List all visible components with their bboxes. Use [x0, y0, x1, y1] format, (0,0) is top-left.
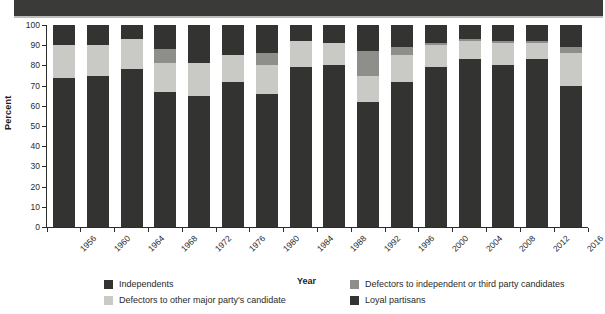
bar-segment-defectors-third-party	[492, 41, 514, 43]
bar-1996	[391, 25, 413, 227]
chart-legend: Independents Defectors to independent or…	[104, 280, 584, 310]
bar-1968	[154, 25, 176, 227]
bar-segment-defectors-other-party	[425, 45, 447, 67]
x-tick-mark	[418, 228, 419, 232]
bar-2012	[526, 25, 548, 227]
bar-segment-independents	[391, 25, 413, 47]
bar-segment-loyal-partisans	[290, 67, 312, 227]
legend-swatch-defectors-third-party	[350, 280, 359, 289]
x-tick-label-1976: 1976	[248, 234, 267, 253]
x-tick-mark	[554, 228, 555, 232]
bar-segment-defectors-other-party	[290, 41, 312, 67]
legend-item-independents: Independents	[104, 280, 174, 289]
y-tick-mark	[42, 25, 46, 26]
x-tick-label-1980: 1980	[281, 234, 300, 253]
bar-segment-defectors-third-party	[256, 53, 278, 65]
bar-segment-independents	[492, 25, 514, 41]
bar-segment-independents	[290, 25, 312, 41]
bar-segment-defectors-third-party	[459, 39, 481, 41]
bar-segment-defectors-other-party	[560, 53, 582, 85]
bar-segment-defectors-third-party	[560, 47, 582, 53]
x-tick-mark	[114, 228, 115, 232]
bar-segment-independents	[323, 25, 345, 43]
bar-segment-independents	[87, 25, 109, 45]
x-tick-mark	[588, 228, 589, 232]
x-tick-label-1964: 1964	[146, 234, 165, 253]
legend-item-loyal-partisans: Loyal partisans	[350, 296, 426, 305]
scan-artifact-banner	[14, 0, 603, 17]
bar-segment-loyal-partisans	[425, 67, 447, 227]
legend-swatch-defectors-other-party	[104, 296, 113, 305]
bar-1972	[188, 25, 210, 227]
x-tick-mark	[486, 228, 487, 232]
x-tick-label-2016: 2016	[586, 234, 605, 253]
bar-segment-defectors-other-party	[87, 45, 109, 75]
y-tick-label: 30	[0, 162, 40, 171]
bar-segment-defectors-other-party	[459, 41, 481, 59]
bar-segment-loyal-partisans	[222, 82, 244, 227]
y-tick-mark	[42, 207, 46, 208]
y-tick-label: 80	[0, 61, 40, 70]
bar-segment-loyal-partisans	[323, 65, 345, 227]
bar-segment-loyal-partisans	[459, 59, 481, 227]
bar-1956	[53, 25, 75, 227]
x-tick-mark	[148, 228, 149, 232]
x-tick-mark	[249, 228, 250, 232]
legend-label-loyal-partisans: Loyal partisans	[365, 296, 426, 305]
y-tick-label: 60	[0, 102, 40, 111]
bar-segment-independents	[188, 25, 210, 63]
y-tick-mark	[42, 86, 46, 87]
bar-segment-independents	[154, 25, 176, 49]
bar-segment-independents	[560, 25, 582, 47]
y-tick-label: 70	[0, 81, 40, 90]
bar-segment-defectors-other-party	[154, 63, 176, 91]
legend-label-independents: Independents	[119, 280, 174, 289]
bar-1984	[290, 25, 312, 227]
bar-segment-independents	[121, 25, 143, 39]
bar-segment-defectors-third-party	[391, 47, 413, 55]
bar-segment-defectors-third-party	[526, 41, 548, 43]
bar-segment-loyal-partisans	[53, 78, 75, 227]
bar-2000	[425, 25, 447, 227]
x-tick-mark	[47, 228, 48, 232]
bar-2016	[560, 25, 582, 227]
x-tick-mark	[283, 228, 284, 232]
bar-segment-defectors-other-party	[323, 43, 345, 65]
bar-2004	[459, 25, 481, 227]
y-tick-label: 20	[0, 182, 40, 191]
x-tick-label-1972: 1972	[214, 234, 233, 253]
bar-segment-loyal-partisans	[188, 96, 210, 227]
x-tick-label-2012: 2012	[552, 234, 571, 253]
bar-segment-defectors-other-party	[256, 65, 278, 93]
y-tick-label: 40	[0, 142, 40, 151]
y-tick-mark	[42, 45, 46, 46]
y-tick-label: 100	[0, 21, 40, 30]
bar-segment-loyal-partisans	[256, 94, 278, 227]
legend-item-defectors-third-party: Defectors to independent or third party …	[350, 280, 565, 289]
x-tick-label-2000: 2000	[450, 234, 469, 253]
bar-1976	[222, 25, 244, 227]
y-tick-label: 10	[0, 203, 40, 212]
legend-label-defectors-other-party: Defectors to other major party's candida…	[119, 296, 286, 305]
bar-1964	[121, 25, 143, 227]
x-tick-mark	[452, 228, 453, 232]
legend-label-defectors-third-party: Defectors to independent or third party …	[365, 280, 565, 289]
x-tick-mark	[351, 228, 352, 232]
bar-segment-loyal-partisans	[560, 86, 582, 227]
bar-segment-defectors-other-party	[222, 55, 244, 81]
bar-segment-independents	[256, 25, 278, 53]
x-tick-mark	[520, 228, 521, 232]
x-tick-label-2008: 2008	[518, 234, 537, 253]
bar-1992	[357, 25, 379, 227]
y-tick-label: 90	[0, 41, 40, 50]
y-tick-mark	[42, 227, 46, 228]
y-tick-mark	[42, 166, 46, 167]
bar-segment-independents	[526, 25, 548, 41]
bar-segment-loyal-partisans	[492, 65, 514, 227]
x-tick-label-1968: 1968	[180, 234, 199, 253]
legend-swatch-independents	[104, 280, 113, 289]
y-tick-mark	[42, 106, 46, 107]
bar-segment-defectors-other-party	[188, 63, 210, 95]
bar-2008	[492, 25, 514, 227]
bar-segment-loyal-partisans	[154, 92, 176, 227]
